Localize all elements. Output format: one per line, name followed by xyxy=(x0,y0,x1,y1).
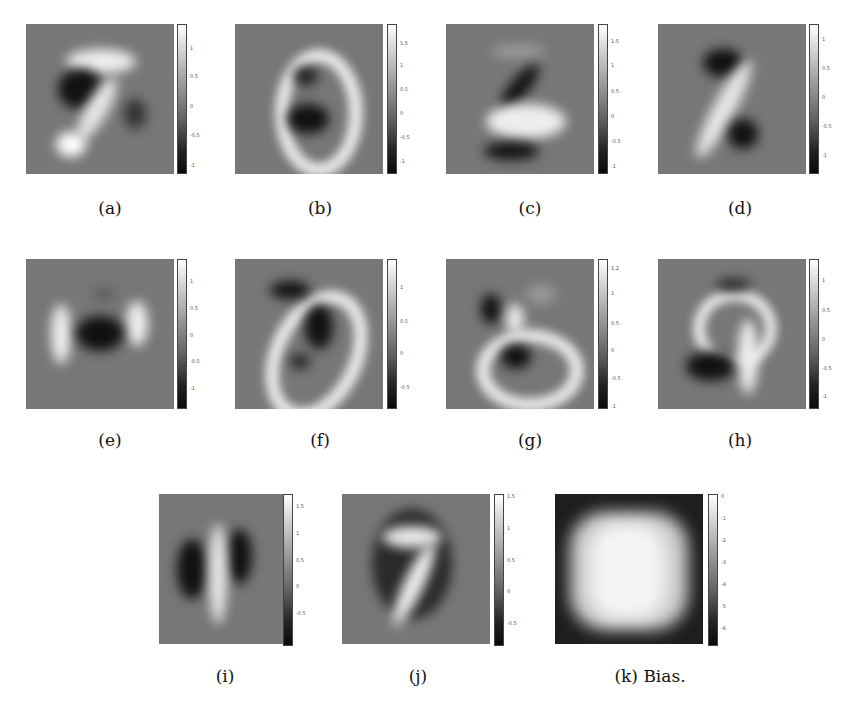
tick: 0.5 xyxy=(611,88,619,94)
tick: 1.5 xyxy=(400,40,408,46)
tick: -6 xyxy=(721,625,726,631)
tick: 1 xyxy=(190,45,193,51)
tick: 1 xyxy=(507,525,510,531)
tick: -0.5 xyxy=(400,134,410,140)
tick: 0 xyxy=(822,94,825,100)
tick: 0 xyxy=(721,493,724,499)
colorbar-d xyxy=(809,24,819,174)
tick: 1 xyxy=(822,277,825,283)
caption-a: (a) xyxy=(80,198,140,218)
caption-f: (f) xyxy=(290,430,350,450)
tick: -1 xyxy=(611,403,616,409)
colorbar-c xyxy=(598,24,608,174)
tick: -0.5 xyxy=(611,375,621,381)
tick: 1 xyxy=(822,36,825,42)
tick: -4 xyxy=(721,581,726,587)
tick: -0.5 xyxy=(822,123,832,129)
colorbar-i xyxy=(283,494,293,646)
weight-image-d xyxy=(658,24,806,174)
tick: -5 xyxy=(721,603,726,609)
caption-b: (b) xyxy=(290,198,350,218)
weight-image-i xyxy=(159,494,287,644)
tick: 0 xyxy=(190,103,193,109)
tick: 0.5 xyxy=(400,318,408,324)
weight-image-b xyxy=(235,24,383,174)
caption-i: (i) xyxy=(195,666,255,686)
tick: 1.5 xyxy=(507,493,515,499)
tick: 1 xyxy=(400,62,403,68)
tick: -0.5 xyxy=(400,384,410,390)
tick: -0.5 xyxy=(507,620,517,626)
tick: 1.5 xyxy=(296,503,304,509)
colorbar-e xyxy=(177,259,187,409)
colorbar-h xyxy=(809,259,819,409)
tick: 1.2 xyxy=(611,265,619,271)
weight-image-f xyxy=(235,259,383,409)
tick: 0.5 xyxy=(822,307,830,313)
weight-image-j xyxy=(342,494,490,644)
tick: 0.5 xyxy=(296,557,304,563)
tick: -0.5 xyxy=(190,132,200,138)
colorbar-k xyxy=(708,494,718,646)
tick: -1 xyxy=(400,158,405,164)
tick: 0.5 xyxy=(400,86,408,92)
tick: -1 xyxy=(822,152,827,158)
colorbar-j xyxy=(494,494,504,646)
caption-c: (c) xyxy=(500,198,560,218)
tick: -1 xyxy=(611,163,616,169)
weight-image-h xyxy=(658,259,806,409)
weight-image-a xyxy=(26,24,174,174)
tick: 0 xyxy=(611,347,614,353)
tick: 1 xyxy=(611,290,614,296)
weight-image-g xyxy=(446,259,594,409)
tick: -1 xyxy=(822,393,827,399)
tick: 0.5 xyxy=(190,73,198,79)
tick: -1 xyxy=(190,385,195,391)
tick: -0.5 xyxy=(611,138,621,144)
tick: 1 xyxy=(611,62,614,68)
tick: 0 xyxy=(822,336,825,342)
tick: 0 xyxy=(296,583,299,589)
caption-e: (e) xyxy=(80,430,140,450)
tick: 0 xyxy=(400,110,403,116)
tick: -0.5 xyxy=(190,358,200,364)
tick: -1 xyxy=(721,515,726,521)
caption-h: (h) xyxy=(710,430,770,450)
weight-image-c xyxy=(446,24,594,174)
tick: 0.5 xyxy=(507,557,515,563)
tick: -2 xyxy=(721,537,726,543)
tick: 0 xyxy=(190,332,193,338)
colorbar-a xyxy=(177,24,187,174)
colorbar-g xyxy=(598,259,608,409)
bias-image-k xyxy=(555,494,703,644)
colorbar-f xyxy=(387,259,397,409)
tick: 0 xyxy=(400,350,403,356)
tick: -1 xyxy=(190,162,195,168)
caption-d: (d) xyxy=(710,198,770,218)
tick: -0.5 xyxy=(296,610,306,616)
tick: 0.5 xyxy=(190,305,198,311)
tick: 1 xyxy=(296,530,299,536)
tick: 1 xyxy=(400,284,403,290)
tick: 1 xyxy=(190,278,193,284)
weight-image-e xyxy=(26,259,174,409)
tick: 0.5 xyxy=(822,65,830,71)
tick: 0.5 xyxy=(611,320,619,326)
colorbar-b xyxy=(387,24,397,174)
tick: 0 xyxy=(611,113,614,119)
tick: -3 xyxy=(721,559,726,565)
tick: 1.5 xyxy=(611,38,619,44)
caption-j: (j) xyxy=(388,666,448,686)
tick: 0 xyxy=(507,588,510,594)
caption-g: (g) xyxy=(500,430,560,450)
caption-k: (k) Bias. xyxy=(590,666,710,686)
tick: -0.5 xyxy=(822,365,832,371)
